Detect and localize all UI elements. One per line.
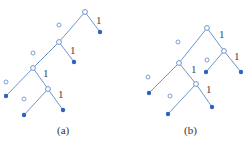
tree-b-one-label: 1	[219, 28, 225, 40]
tree-b-one-label: 1	[191, 63, 197, 75]
tree-a-inner-node	[57, 40, 62, 45]
tree-b-leaf-node	[204, 70, 208, 74]
tree-b-zero-label	[176, 40, 180, 44]
tree-a-edge	[6, 68, 33, 96]
tree-a-zero-label	[57, 23, 61, 27]
tree-a-one-label: 1	[58, 88, 64, 100]
tree-b-zero-label	[146, 75, 150, 79]
tree-a-leaf-node	[72, 60, 76, 64]
caption-b: (b)	[184, 124, 197, 136]
tree-a-zero-label	[4, 80, 8, 84]
tree-b-one-label: 1	[234, 50, 240, 62]
tree-a-inner-node	[83, 10, 88, 15]
tree-b-zero-label	[205, 58, 209, 62]
tree-a-leaf-node	[61, 108, 65, 112]
tree-a-edge	[59, 12, 85, 42]
tree-diagram: 11111111	[0, 0, 248, 143]
tree-a-edge	[24, 89, 48, 115]
caption-a: (a)	[57, 124, 69, 136]
tree-b-leaf-node	[147, 91, 151, 95]
tree-a-inner-node	[31, 66, 36, 71]
tree-a-one-label: 1	[43, 67, 49, 79]
tree-a-leaf-node	[22, 113, 26, 117]
tree-b-inner-node	[194, 82, 199, 87]
tree-b-one-label: 1	[206, 83, 212, 95]
tree-b-inner-node	[222, 49, 227, 54]
tree-b-edge	[168, 84, 196, 114]
tree-a-edge	[33, 42, 59, 68]
tree-b-edge	[149, 63, 179, 93]
tree-a-zero-label	[31, 51, 35, 55]
tree-b-inner-node	[205, 26, 210, 31]
tree-a-inner-node	[46, 87, 51, 92]
tree-a-leaf-node	[4, 94, 8, 98]
tree-a-one-label: 1	[70, 44, 76, 56]
tree-a-one-label: 1	[96, 14, 102, 26]
tree-b-leaf-node	[239, 70, 243, 74]
tree-b-inner-node	[177, 61, 182, 66]
tree-b-leaf-node	[166, 112, 170, 116]
tree-b-zero-label	[168, 94, 172, 98]
tree-b-leaf-node	[210, 105, 214, 109]
tree-b-edge	[179, 28, 207, 63]
tree-a-zero-label	[22, 97, 26, 101]
tree-a-leaf-node	[98, 30, 102, 34]
